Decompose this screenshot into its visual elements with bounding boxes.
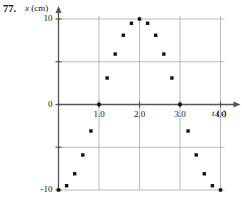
data-point	[89, 129, 92, 132]
data-point	[154, 34, 157, 37]
data-point	[138, 17, 141, 20]
data-point	[57, 188, 60, 191]
x-tick-label: 2.0	[126, 109, 154, 119]
y-axis-arrow-icon	[56, 6, 62, 13]
x-tick-label: 3.0	[166, 109, 194, 119]
data-point	[130, 22, 133, 25]
data-point	[195, 153, 198, 156]
y-tick-label: 10	[25, 13, 53, 23]
data-point	[81, 153, 84, 156]
figure-container: 77. x (cm) t (s) 100-101.02.03.04.0	[0, 0, 242, 198]
x-tick-label: 4.0	[207, 109, 235, 119]
data-point	[162, 52, 165, 55]
data-point	[114, 52, 117, 55]
data-point	[178, 103, 181, 106]
x-axis-arrow-icon	[234, 102, 241, 108]
data-point	[73, 172, 76, 175]
data-point	[65, 184, 68, 187]
y-tick-label: 0	[25, 99, 53, 109]
axis-lines	[56, 6, 241, 190]
y-tick-label: -10	[25, 184, 53, 194]
data-point	[203, 172, 206, 175]
data-point	[170, 76, 173, 79]
data-point	[186, 129, 189, 132]
gridlines	[59, 16, 225, 190]
data-point	[122, 34, 125, 37]
x-tick-label: 1.0	[85, 109, 113, 119]
data-point	[146, 22, 149, 25]
data-point	[105, 76, 108, 79]
data-point	[211, 184, 214, 187]
data-point	[97, 103, 100, 106]
data-point	[219, 188, 222, 191]
